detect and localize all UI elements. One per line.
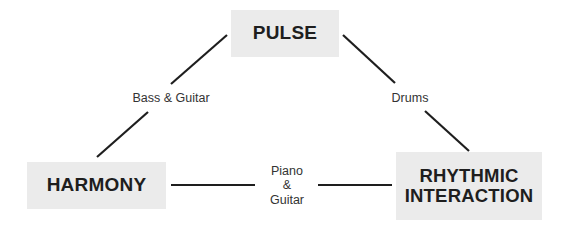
edge-harmony-pulse-upper — [171, 35, 227, 84]
node-harmony: HARMONY — [27, 162, 166, 209]
node-pulse: PULSE — [231, 10, 339, 57]
node-harmony-label: HARMONY — [47, 175, 147, 196]
edge-label-piano-line2: & — [254, 178, 320, 192]
edge-label-piano-line1: Piano — [254, 164, 320, 178]
edge-pulse-rhythm-lower — [425, 111, 469, 151]
edge-label-bass-guitar: Bass & Guitar — [116, 91, 226, 106]
edge-harmony-pulse-lower — [97, 112, 148, 157]
node-rhythmic-interaction-line1: RHYTHMIC — [419, 166, 518, 186]
edge-label-piano-line3: Guitar — [254, 193, 320, 207]
node-rhythmic-interaction: RHYTHMIC INTERACTION — [396, 152, 542, 220]
node-rhythmic-interaction-line2: INTERACTION — [405, 186, 534, 206]
edge-label-piano-guitar: Piano & Guitar — [254, 164, 320, 207]
edge-label-drums: Drums — [385, 91, 435, 106]
node-pulse-label: PULSE — [253, 23, 317, 44]
edge-pulse-rhythm-upper — [343, 35, 395, 83]
